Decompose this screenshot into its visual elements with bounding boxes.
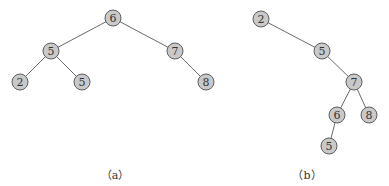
node-label: 2 xyxy=(17,76,24,89)
tree-node: 2 xyxy=(253,11,269,27)
tree-b: 257685 xyxy=(253,11,377,154)
tree-diagrams: 657258257685 xyxy=(0,0,389,186)
tree-edge xyxy=(51,18,113,51)
node-label: 7 xyxy=(351,76,358,89)
tree-node: 8 xyxy=(198,74,214,90)
tree-edge xyxy=(113,18,175,51)
node-label: 8 xyxy=(203,76,210,89)
diagram-canvas: 657258257685 （a） （b） xyxy=(0,0,389,186)
caption-a: （a） xyxy=(101,166,130,182)
tree-node: 6 xyxy=(329,107,345,123)
tree-node: 7 xyxy=(346,74,362,90)
node-label: 5 xyxy=(326,140,333,153)
node-label: 8 xyxy=(366,109,373,122)
tree-node: 5 xyxy=(74,74,90,90)
node-label: 6 xyxy=(334,109,341,122)
node-label: 5 xyxy=(48,45,55,58)
tree-node: 7 xyxy=(167,43,183,59)
tree-node: 8 xyxy=(361,107,377,123)
tree-edge xyxy=(261,19,322,51)
tree-node: 5 xyxy=(43,43,59,59)
node-label: 5 xyxy=(79,76,86,89)
tree-node: 6 xyxy=(105,10,121,26)
node-label: 7 xyxy=(172,45,179,58)
caption-b: （b） xyxy=(292,166,321,182)
node-label: 2 xyxy=(258,13,265,26)
tree-node: 2 xyxy=(12,74,28,90)
tree-node: 5 xyxy=(314,43,330,59)
tree-node: 5 xyxy=(321,138,337,154)
tree-a: 657258 xyxy=(12,10,214,90)
node-label: 5 xyxy=(319,45,326,58)
node-label: 6 xyxy=(110,12,117,25)
